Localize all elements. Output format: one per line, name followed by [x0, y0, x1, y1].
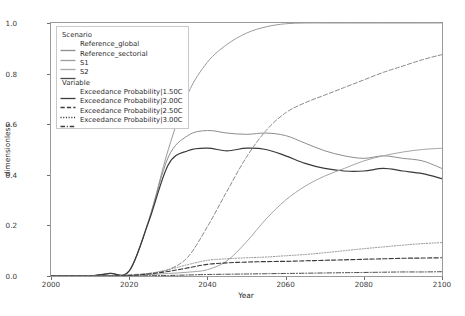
x-tick-mark	[286, 277, 287, 280]
legend-group-title: Scenario	[62, 31, 183, 39]
legend-swatch-icon	[60, 50, 76, 59]
legend-item[interactable]: S1	[60, 59, 183, 68]
x-tick-mark	[51, 277, 52, 280]
legend-item-label: Exceedance Probability|2.00C	[80, 97, 183, 106]
legend-item[interactable]: Reference_global	[60, 40, 183, 49]
x-axis-label: Year	[238, 291, 254, 300]
legend-item-label: Exceedance Probability|2.50C	[80, 107, 183, 116]
x-tick-mark	[442, 277, 443, 280]
legend-item[interactable]: Exceedance Probability|2.00C	[60, 97, 183, 106]
legend-item-label: Reference_sectorial	[80, 50, 148, 59]
y-axis-label: dimensionless	[3, 124, 12, 177]
x-tick-mark	[207, 277, 208, 280]
legend-item-label: Reference_global	[80, 40, 139, 49]
legend-group-title: Variable	[62, 79, 183, 87]
legend-item-label: S2	[80, 68, 89, 77]
legend-swatch-icon	[60, 107, 76, 116]
x-tick-label: 2000	[42, 280, 60, 289]
y-tick-label: 0.6	[6, 120, 17, 129]
legend-item-label: S1	[80, 59, 89, 68]
legend-item[interactable]: Reference_sectorial	[60, 49, 183, 58]
y-tick-label: 0.0	[6, 272, 17, 281]
chart-figure: dimensionless Year 0.00.20.40.60.81.0 20…	[0, 0, 465, 316]
legend-item[interactable]: Exceedance Probability|3.00C	[60, 116, 183, 125]
legend-item[interactable]: Exceedance Probability|1.50C	[60, 88, 183, 97]
x-tick-mark	[129, 277, 130, 280]
legend-swatch-icon	[60, 116, 76, 125]
x-tick-label: 2080	[355, 280, 373, 289]
y-tick-label: 0.8	[6, 69, 17, 78]
legend-item[interactable]: Exceedance Probability|2.50C	[60, 106, 183, 115]
x-tick-label: 2060	[276, 280, 294, 289]
x-tick-mark	[364, 277, 365, 280]
x-tick-label: 2040	[198, 280, 216, 289]
y-tick-label: 0.2	[6, 221, 17, 230]
chart-legend: ScenarioReference_globalReference_sector…	[56, 26, 189, 129]
legend-item[interactable]: S2	[60, 68, 183, 77]
series-line	[51, 148, 442, 276]
y-tick-label: 0.4	[6, 170, 17, 179]
x-tick-label: 2020	[120, 280, 138, 289]
legend-item-label: Exceedance Probability|3.00C	[80, 116, 183, 125]
series-line	[51, 130, 442, 276]
legend-swatch-icon	[60, 88, 76, 97]
legend-swatch-icon	[60, 59, 76, 68]
legend-swatch-icon	[60, 68, 76, 77]
legend-swatch-icon	[60, 40, 76, 49]
y-tick-label: 1.0	[6, 19, 17, 28]
legend-swatch-icon	[60, 97, 76, 106]
legend-item-label: Exceedance Probability|1.50C	[80, 88, 183, 97]
series-line	[51, 148, 442, 276]
x-tick-label: 2100	[433, 280, 451, 289]
